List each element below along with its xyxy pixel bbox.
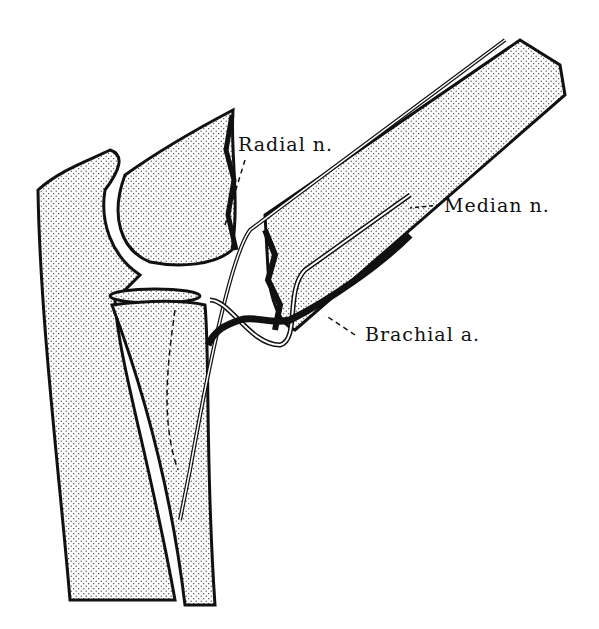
brachial-artery-label: Brachial a. [365, 323, 480, 345]
median-nerve-label: Median n. [444, 194, 550, 216]
elbow-illustration [0, 0, 599, 629]
radial-nerve-label: Radial n. [238, 133, 333, 155]
humerus-condyle [118, 110, 235, 265]
brachial-leader [325, 315, 355, 335]
